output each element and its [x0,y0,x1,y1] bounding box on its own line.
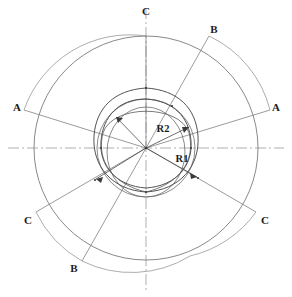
section-line-c-bottom-left [36,148,146,212]
vertex-marker-bottom [145,191,147,193]
vertex-marker-left [100,147,102,149]
center-point [145,147,147,149]
section-wedge-arcs [24,35,270,273]
label-b-top-right: B [210,24,217,35]
label-r1: R1 [176,154,189,165]
dimension-r1-leader [146,148,197,177]
vertex-marker-right [190,147,192,149]
label-c-bottom-right: C [261,215,269,226]
vertex-marker-top [145,87,147,89]
label-r2: R2 [157,124,170,135]
wedge-arc-lower-left [36,212,82,261]
wedge-arc-upper-left [24,35,146,110]
dimension-r1 [146,148,197,179]
section-line-b-bottom-left [82,148,146,261]
technical-drawing-canvas: C B A A R2 R1 C C B [0,0,292,297]
vertex-leader-lower-left [96,148,146,179]
label-c-top: C [142,6,150,17]
label-a-right: A [272,102,280,113]
vertex-marker-lower-right [197,177,199,179]
wedge-arc-lower-right [190,212,256,256]
geometry-svg [0,0,292,297]
wedge-arc-bottom [82,256,190,273]
vertex-marker-upper-right [171,105,173,107]
wedge-arc-upper-right [209,36,270,110]
label-b-bottom-left: B [70,263,77,274]
label-c-bottom-left: C [24,215,32,226]
vertex-marker-lower-left [94,179,96,181]
label-a-left: A [13,102,21,113]
